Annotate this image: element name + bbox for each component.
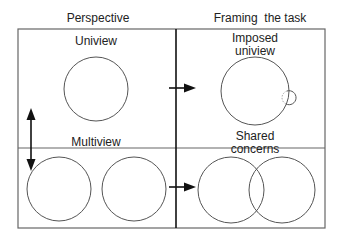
uniview-circle [64, 57, 128, 121]
shared-concerns-circle-1 [198, 157, 264, 223]
label-uniview: Uniview [56, 35, 136, 48]
header-framing-the-task: Framing the task [200, 12, 320, 25]
shared-concerns-circle-2 [249, 157, 315, 223]
vertical-double-arrow-icon [27, 108, 36, 171]
header-perspective: Perspective [48, 12, 148, 25]
right-arrow-bottom-icon [169, 183, 196, 192]
minority-view-bump [286, 91, 296, 105]
label-concerns: concerns [215, 143, 295, 156]
minority-view-dashed [282, 91, 287, 104]
multiview-circle-2 [102, 157, 166, 221]
outer-frame [18, 29, 325, 228]
right-arrow-top-icon [169, 84, 196, 93]
multiview-circle-1 [27, 157, 91, 221]
label-uniview-2: uniview [215, 45, 295, 58]
label-multiview: Multiview [56, 136, 136, 149]
imposed-uniview-circle [221, 57, 289, 125]
